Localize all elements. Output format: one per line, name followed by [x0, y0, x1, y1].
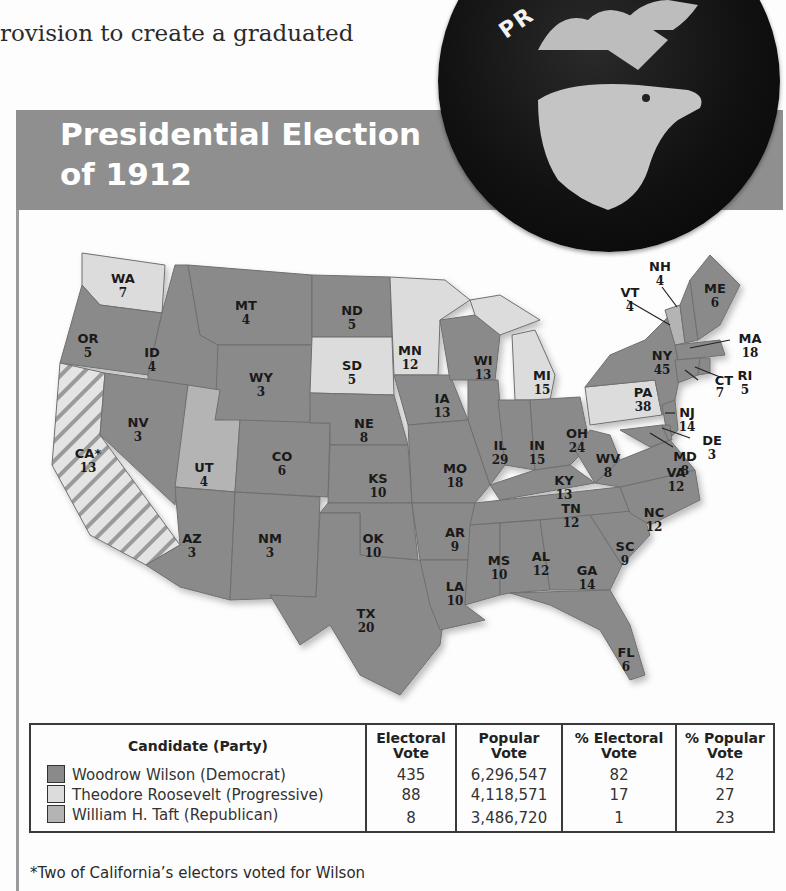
- svg-text:WV: WV: [596, 451, 620, 466]
- state-NM: [230, 492, 320, 600]
- svg-text:GA: GA: [577, 563, 598, 578]
- svg-text:MT: MT: [235, 298, 257, 313]
- svg-text:OR: OR: [77, 331, 98, 346]
- svg-text:5: 5: [348, 318, 356, 332]
- bull-moose-badge: PR: [438, 0, 780, 252]
- svg-text:MI: MI: [533, 368, 551, 383]
- results-table: Candidate (Party) ElectoralVote PopularV…: [29, 723, 775, 833]
- svg-text:12: 12: [402, 358, 419, 372]
- svg-text:8: 8: [604, 466, 612, 480]
- pct-electoral: 82: [562, 765, 676, 785]
- svg-text:3: 3: [708, 448, 716, 462]
- svg-text:14: 14: [679, 420, 696, 434]
- header-popular-vote: PopularVote: [456, 724, 562, 765]
- svg-text:20: 20: [358, 621, 375, 635]
- svg-text:AR: AR: [445, 525, 465, 540]
- svg-text:10: 10: [491, 568, 508, 582]
- svg-text:45: 45: [654, 363, 671, 377]
- popular-vote: 4,118,571: [456, 785, 562, 805]
- svg-text:WY: WY: [249, 370, 273, 385]
- svg-text:14: 14: [579, 578, 596, 592]
- title-line-1: Presidential Election: [60, 114, 421, 154]
- svg-text:9: 9: [621, 554, 629, 568]
- svg-text:5: 5: [741, 383, 749, 397]
- svg-text:4: 4: [242, 313, 250, 327]
- svg-text:15: 15: [534, 383, 551, 397]
- svg-text:3: 3: [257, 385, 265, 399]
- electoral-vote: 8: [366, 805, 456, 832]
- state-AR: [412, 503, 475, 560]
- svg-text:NV: NV: [128, 415, 149, 430]
- svg-text:4: 4: [148, 360, 156, 374]
- svg-text:OH: OH: [566, 426, 588, 441]
- table-row: William H. Taft (Republican) 8 3,486,720…: [30, 805, 774, 832]
- svg-text:VT: VT: [621, 285, 640, 300]
- svg-text:MD: MD: [673, 449, 697, 464]
- svg-text:KY: KY: [554, 473, 574, 488]
- svg-text:5: 5: [84, 346, 92, 360]
- svg-text:24: 24: [569, 441, 586, 455]
- header-pct-electoral: % ElectoralVote: [562, 724, 676, 765]
- svg-text:18: 18: [447, 476, 464, 490]
- table-header-row: Candidate (Party) ElectoralVote PopularV…: [30, 724, 774, 765]
- svg-text:DE: DE: [702, 433, 722, 448]
- svg-text:LA: LA: [446, 579, 464, 594]
- svg-text:18: 18: [742, 346, 759, 360]
- title-line-2: of 1912: [60, 154, 421, 194]
- pct-popular: 23: [676, 805, 774, 832]
- svg-text:3: 3: [266, 546, 274, 560]
- footnote: *Two of California’s electors voted for …: [30, 864, 365, 882]
- svg-text:WI: WI: [473, 353, 492, 368]
- state-IA: [394, 375, 468, 425]
- svg-text:ND: ND: [341, 303, 363, 318]
- svg-text:IA: IA: [435, 391, 450, 406]
- electoral-vote: 435: [366, 765, 456, 785]
- svg-text:TX: TX: [357, 606, 376, 621]
- electoral-vote: 88: [366, 785, 456, 805]
- svg-text:6: 6: [711, 296, 719, 310]
- svg-text:WA: WA: [111, 271, 135, 286]
- svg-text:AZ: AZ: [182, 531, 202, 546]
- pct-electoral: 1: [562, 805, 676, 832]
- svg-text:NY: NY: [652, 348, 673, 363]
- svg-text:UT: UT: [194, 460, 214, 475]
- svg-text:12: 12: [668, 480, 685, 494]
- svg-text:MS: MS: [488, 553, 510, 568]
- svg-text:CA*: CA*: [75, 446, 102, 461]
- svg-text:3: 3: [188, 546, 196, 560]
- svg-text:4: 4: [626, 300, 634, 314]
- table-row: Woodrow Wilson (Democrat) 435 6,296,547 …: [30, 765, 774, 785]
- svg-text:13: 13: [434, 406, 451, 420]
- header-pct-popular: % PopularVote: [676, 724, 774, 765]
- svg-text:MA: MA: [739, 331, 762, 346]
- svg-text:OK: OK: [362, 531, 384, 546]
- svg-text:TN: TN: [561, 501, 581, 516]
- pct-popular: 27: [676, 785, 774, 805]
- candidate-name: Theodore Roosevelt (Progressive): [72, 786, 324, 804]
- popular-vote: 6,296,547: [456, 765, 562, 785]
- table-row: Theodore Roosevelt (Progressive) 88 4,11…: [30, 785, 774, 805]
- candidate-name: Woodrow Wilson (Democrat): [72, 766, 286, 784]
- legend-swatch-taft: [47, 805, 65, 823]
- page-title: Presidential Election of 1912: [60, 114, 421, 194]
- candidate-name: William H. Taft (Republican): [72, 806, 278, 824]
- svg-text:12: 12: [646, 520, 663, 534]
- svg-text:NJ: NJ: [679, 405, 695, 420]
- svg-text:IL: IL: [493, 438, 506, 453]
- svg-text:29: 29: [492, 453, 509, 467]
- svg-text:13: 13: [556, 488, 573, 502]
- legend-swatch-wilson: [47, 765, 65, 783]
- svg-text:3: 3: [134, 430, 142, 444]
- svg-text:7: 7: [119, 286, 127, 300]
- legend-swatch-roosevelt: [47, 785, 65, 803]
- svg-text:ID: ID: [144, 345, 160, 360]
- svg-text:AL: AL: [532, 549, 550, 564]
- svg-text:13: 13: [475, 368, 492, 382]
- svg-text:IN: IN: [529, 438, 545, 453]
- svg-text:5: 5: [348, 373, 356, 387]
- svg-text:10: 10: [365, 546, 382, 560]
- bull-moose-icon: [438, 0, 780, 252]
- pct-electoral: 17: [562, 785, 676, 805]
- svg-text:12: 12: [563, 516, 580, 530]
- svg-text:9: 9: [451, 540, 459, 554]
